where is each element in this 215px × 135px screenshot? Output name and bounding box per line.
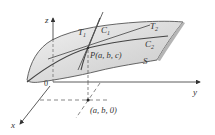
diagram-canvas: z y x 0 T1 C1 T2 C2 P(a, b, c) S (a, b, … <box>0 0 215 135</box>
label-point-p: P(a, b, c) <box>89 50 122 60</box>
z-axis-label: z <box>44 15 49 25</box>
x-axis-label: x <box>10 120 15 130</box>
point-p <box>87 47 89 49</box>
point-base <box>86 98 89 101</box>
label-point-base: (a, b, 0) <box>90 105 117 115</box>
label-surface-s: S <box>143 56 148 66</box>
x-axis <box>20 86 50 124</box>
y-axis-label: y <box>192 87 197 97</box>
origin-label: 0 <box>44 79 48 88</box>
